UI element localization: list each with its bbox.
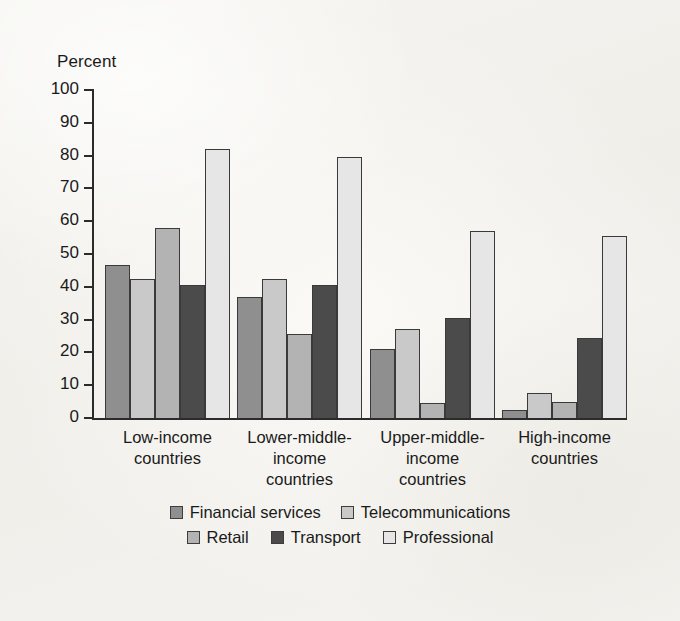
legend-label: Retail xyxy=(207,528,249,547)
bar xyxy=(527,393,552,418)
bar xyxy=(130,279,155,418)
bar-chart-figure: Percent 1009080706050403020100 Low-incom… xyxy=(0,0,680,621)
bar xyxy=(395,329,420,418)
x-axis-line xyxy=(92,418,627,420)
y-axis-tick-label: 80 xyxy=(60,145,79,165)
legend-item: Financial services xyxy=(170,503,321,522)
y-axis-tick-mark xyxy=(84,155,93,157)
y-axis-tick-mark xyxy=(84,122,93,124)
y-axis-tick-label: 90 xyxy=(60,112,79,132)
bar xyxy=(205,149,230,418)
y-axis-tick-label: 70 xyxy=(60,177,79,197)
legend-swatch-icon xyxy=(170,506,183,519)
bar xyxy=(420,403,445,418)
y-axis-tick-label: 0 xyxy=(70,407,79,427)
legend-label: Financial services xyxy=(190,503,321,522)
bar xyxy=(287,334,312,418)
y-axis-tick-label: 50 xyxy=(60,243,79,263)
y-axis-tick-mark xyxy=(84,253,93,255)
chart-legend: Financial servicesTelecommunications Ret… xyxy=(0,503,680,547)
legend-swatch-icon xyxy=(271,531,284,544)
legend-row-2: RetailTransportProfessional xyxy=(187,528,494,547)
bar xyxy=(552,402,577,418)
y-axis-tick-mark xyxy=(84,187,93,189)
plot-area: 1009080706050403020100 xyxy=(93,90,625,418)
y-axis-tick-mark xyxy=(84,286,93,288)
y-axis-tick-mark xyxy=(84,384,93,386)
x-axis-category-label: High-income countries xyxy=(485,427,645,469)
y-axis-tick-label: 20 xyxy=(60,341,79,361)
bar-group xyxy=(237,90,362,418)
bar-group xyxy=(502,90,627,418)
legend-item: Professional xyxy=(383,528,494,547)
bar xyxy=(577,338,602,418)
y-axis-tick-label: 100 xyxy=(51,79,79,99)
y-axis-tick-label: 10 xyxy=(60,374,79,394)
legend-swatch-icon xyxy=(383,531,396,544)
legend-row-1: Financial servicesTelecommunications xyxy=(170,503,511,522)
bar xyxy=(470,231,495,418)
y-axis-tick-mark xyxy=(84,220,93,222)
bar xyxy=(237,297,262,418)
bar xyxy=(180,285,205,418)
bar-group xyxy=(370,90,495,418)
bar xyxy=(262,279,287,418)
bar xyxy=(370,349,395,418)
legend-swatch-icon xyxy=(341,506,354,519)
bar xyxy=(105,265,130,418)
bar xyxy=(337,157,362,418)
legend-label: Professional xyxy=(403,528,494,547)
legend-label: Transport xyxy=(291,528,361,547)
bar xyxy=(445,318,470,418)
legend-item: Telecommunications xyxy=(341,503,510,522)
y-axis-tick-mark xyxy=(84,319,93,321)
legend-label: Telecommunications xyxy=(361,503,510,522)
bar xyxy=(155,228,180,418)
bar-group xyxy=(105,90,230,418)
y-axis-tick-label: 40 xyxy=(60,276,79,296)
legend-item: Transport xyxy=(271,528,361,547)
legend-swatch-icon xyxy=(187,531,200,544)
y-axis-tick-mark xyxy=(84,351,93,353)
y-axis-title: Percent xyxy=(57,52,116,72)
bar xyxy=(602,236,627,418)
bar xyxy=(312,285,337,418)
bar xyxy=(502,410,527,418)
y-axis-tick-mark xyxy=(84,417,93,419)
y-axis-tick-label: 60 xyxy=(60,210,79,230)
y-axis-tick-label: 30 xyxy=(60,309,79,329)
legend-item: Retail xyxy=(187,528,249,547)
y-axis-tick-mark xyxy=(84,89,93,91)
